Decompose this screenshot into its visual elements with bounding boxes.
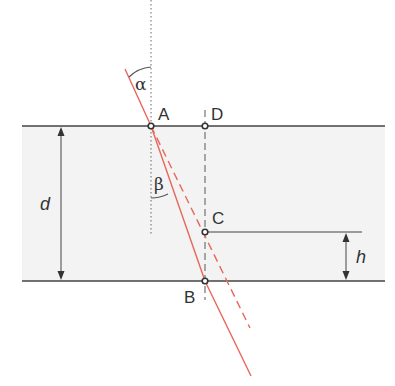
diagram-canvas: A D C B α β d h bbox=[0, 0, 395, 386]
point-C bbox=[202, 229, 208, 235]
label-h: h bbox=[356, 247, 366, 267]
label-D: D bbox=[211, 105, 223, 124]
point-D bbox=[202, 123, 208, 129]
point-B bbox=[202, 278, 208, 284]
label-A: A bbox=[158, 105, 170, 124]
slab-region bbox=[22, 126, 385, 281]
label-alpha: α bbox=[135, 74, 147, 94]
label-B: B bbox=[184, 288, 195, 307]
label-d: d bbox=[40, 194, 51, 214]
emergent-ray bbox=[205, 281, 251, 376]
label-beta: β bbox=[154, 174, 164, 194]
label-C: C bbox=[212, 209, 224, 228]
refraction-diagram: A D C B α β d h bbox=[0, 0, 395, 386]
point-A bbox=[148, 123, 154, 129]
